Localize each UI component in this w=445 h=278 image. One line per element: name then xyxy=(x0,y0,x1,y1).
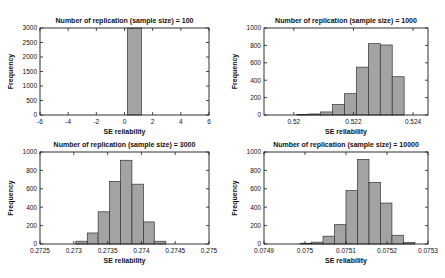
histogram-svg-n3000: 0.27250.2730.27350.2740.27450.2750200400… xyxy=(0,139,222,278)
y-tick-label: 800 xyxy=(26,167,37,174)
x-tick-label: 0.273 xyxy=(66,247,83,254)
chart-title: Number of replication (sample size) = 30… xyxy=(54,141,196,149)
x-tick-label: -4 xyxy=(65,118,71,125)
x-tick-label: 0.2735 xyxy=(98,247,118,254)
y-tick-label: 1000 xyxy=(23,148,38,155)
y-tick-label: 600 xyxy=(26,185,37,192)
y-axis-label: Frequency xyxy=(231,180,239,216)
y-tick-label: 400 xyxy=(250,77,261,84)
histogram-n10000: 0.07490.0750.07510.07520.075302004006008… xyxy=(223,139,445,278)
histogram-n3000: 0.27250.2730.27350.2740.27450.2750200400… xyxy=(0,139,222,278)
x-tick-label: 0.522 xyxy=(345,118,362,125)
y-tick-label: 0 xyxy=(257,111,261,118)
x-tick-label: 0.2725 xyxy=(30,247,50,254)
y-tick-label: 0 xyxy=(33,240,37,247)
histogram-bar xyxy=(127,28,141,115)
x-tick-label: -2 xyxy=(93,118,99,125)
x-tick-label: 0 xyxy=(123,118,127,125)
y-tick-label: 400 xyxy=(250,204,261,211)
x-tick-label: 0.52 xyxy=(287,118,300,125)
chart-title: Number of replication (sample size) = 10… xyxy=(275,17,417,25)
y-tick-label: 800 xyxy=(250,42,261,49)
x-tick-label: 0.524 xyxy=(405,118,422,125)
histogram-svg-n1000: 0.520.5220.52402004006008001000Number of… xyxy=(223,0,445,139)
histogram-bar xyxy=(132,184,143,244)
histogram-bar xyxy=(356,67,368,115)
y-tick-label: 1000 xyxy=(247,148,262,155)
y-tick-label: 1000 xyxy=(247,24,262,31)
y-axis-label: Frequency xyxy=(7,180,15,216)
y-tick-label: 2500 xyxy=(23,39,38,46)
y-tick-label: 3000 xyxy=(23,24,38,31)
histogram-bar xyxy=(369,182,380,244)
y-tick-label: 0 xyxy=(33,111,37,118)
y-tick-label: 1500 xyxy=(23,68,38,75)
histogram-bar xyxy=(357,159,368,244)
chart-title: Number of replication (sample size) = 10… xyxy=(56,17,194,25)
x-axis-label: SE reliability xyxy=(103,128,145,136)
histogram-bar xyxy=(333,105,345,115)
y-tick-label: 1000 xyxy=(23,82,38,89)
histogram-bar xyxy=(380,45,392,115)
histogram-bar xyxy=(323,236,334,244)
x-tick-label: 0.0752 xyxy=(377,247,397,254)
histogram-n100: -6-4-20246050010001500200025003000Number… xyxy=(0,0,222,139)
histogram-bar xyxy=(143,222,154,244)
y-tick-label: 600 xyxy=(250,185,261,192)
histogram-bar xyxy=(392,235,403,244)
histogram-bar xyxy=(110,181,121,244)
histogram-bar xyxy=(392,77,404,115)
histogram-n1000: 0.520.5220.52402004006008001000Number of… xyxy=(223,0,445,139)
y-tick-label: 400 xyxy=(26,204,37,211)
y-tick-label: 500 xyxy=(26,97,37,104)
chart-title: Number of replication (sample size) = 10… xyxy=(273,141,419,149)
histogram-bar xyxy=(346,191,357,244)
histogram-bar xyxy=(98,212,109,244)
x-tick-label: 0.2745 xyxy=(165,247,185,254)
y-axis-label: Frequency xyxy=(231,54,239,90)
y-tick-label: 800 xyxy=(250,167,261,174)
y-tick-label: 2000 xyxy=(23,53,38,60)
histogram-bar xyxy=(335,225,346,244)
y-axis-label: Frequency xyxy=(7,54,15,90)
x-tick-label: 6 xyxy=(207,118,211,125)
histogram-bar xyxy=(120,160,131,244)
histogram-bar xyxy=(87,233,98,244)
y-tick-label: 200 xyxy=(250,94,261,101)
x-tick-label: 0.275 xyxy=(201,247,218,254)
histogram-bar xyxy=(368,44,380,115)
x-axis-label: SE reliability xyxy=(325,128,367,136)
figure-canvas: -6-4-20246050010001500200025003000Number… xyxy=(0,0,445,278)
y-tick-label: 200 xyxy=(26,222,37,229)
x-tick-label: 0.0753 xyxy=(418,247,438,254)
x-tick-label: 0.274 xyxy=(133,247,150,254)
x-tick-label: -6 xyxy=(37,118,43,125)
x-tick-label: 2 xyxy=(151,118,155,125)
y-tick-label: 0 xyxy=(257,240,261,247)
histogram-svg-n10000: 0.07490.0750.07510.07520.075302004006008… xyxy=(223,139,445,278)
histogram-svg-n100: -6-4-20246050010001500200025003000Number… xyxy=(0,0,222,139)
histogram-bar xyxy=(321,112,333,115)
y-tick-label: 200 xyxy=(250,222,261,229)
x-tick-label: 0.075 xyxy=(297,247,314,254)
x-axis-label: SE reliability xyxy=(325,257,367,265)
axes-box xyxy=(40,28,209,115)
x-tick-label: 4 xyxy=(179,118,183,125)
histogram-bar xyxy=(380,203,391,244)
x-tick-label: 0.0751 xyxy=(336,247,356,254)
x-axis-label: SE reliability xyxy=(103,257,145,265)
y-tick-label: 600 xyxy=(250,59,261,66)
histogram-bar xyxy=(345,94,357,115)
x-tick-label: 0.0749 xyxy=(254,247,274,254)
